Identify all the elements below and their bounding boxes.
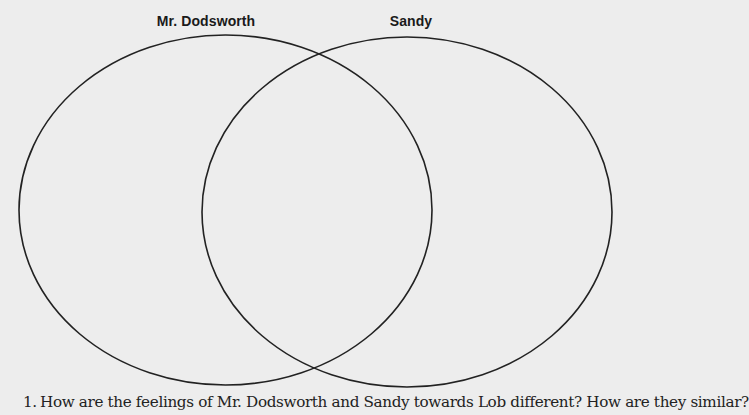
- set-label-mr-dodsworth: Mr. Dodsworth: [157, 13, 256, 29]
- question-number: 1.: [23, 393, 40, 411]
- question-1: 1.How are the feelings of Mr. Dodsworth …: [23, 393, 749, 411]
- circle-mr-dodsworth: [19, 35, 432, 385]
- question-text: How are the feelings of Mr. Dodsworth an…: [40, 393, 749, 411]
- set-label-sandy: Sandy: [390, 13, 433, 29]
- circle-sandy: [202, 37, 612, 387]
